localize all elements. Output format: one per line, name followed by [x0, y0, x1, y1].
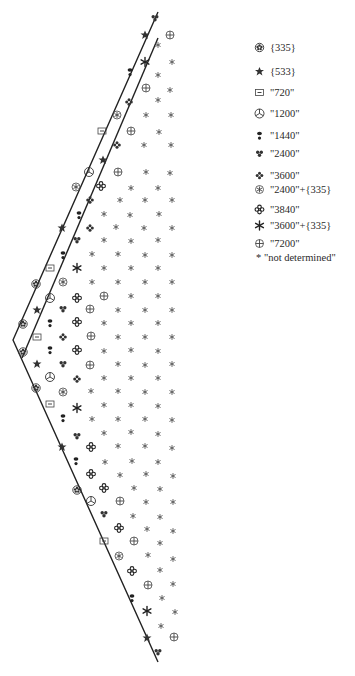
small-asterisk-marker — [129, 376, 133, 381]
quad-flower-icon — [254, 204, 265, 215]
flower-icon — [254, 42, 265, 53]
small-asterisk-marker — [158, 515, 162, 520]
small-asterisk-marker — [144, 472, 148, 477]
legend-label: "3600"+{335} — [270, 220, 331, 231]
circle-cross-marker — [86, 361, 94, 369]
outer-boundary-line — [13, 12, 158, 662]
keyhole-marker — [48, 319, 53, 327]
small-asterisk-marker — [156, 349, 160, 354]
small-asterisk-marker — [168, 88, 172, 93]
small-asterisk-marker — [170, 60, 174, 65]
quad-flower-marker — [100, 484, 109, 493]
snowflake-circle-icon — [254, 184, 265, 195]
legend-item: "1200" — [254, 108, 300, 119]
small-asterisk-marker — [116, 362, 120, 367]
small-asterisk-marker — [160, 596, 164, 601]
legend-label: {335} — [270, 42, 296, 53]
small-asterisk-marker — [129, 239, 133, 244]
boxed-dash-marker — [33, 334, 41, 340]
small-asterisk-marker — [129, 186, 133, 191]
small-asterisk-marker — [170, 198, 174, 203]
small-asterisk-marker — [143, 253, 147, 258]
small-asterisk-marker — [168, 171, 172, 176]
small-asterisk-marker — [129, 321, 133, 326]
small-asterisk-marker — [170, 418, 174, 423]
keyhole-marker — [61, 414, 66, 422]
boxed-dash-icon — [254, 87, 265, 98]
small-asterisk-marker — [116, 308, 120, 313]
quad-flower-marker — [115, 524, 124, 533]
legend-item: * "not determined" — [254, 252, 336, 263]
small-asterisk-marker — [144, 500, 148, 505]
small-asterisk-marker — [132, 486, 136, 491]
small-asterisk-marker — [143, 363, 147, 368]
circle-cross-marker — [100, 292, 108, 300]
small-asterisk-marker — [173, 610, 177, 615]
small-asterisk-marker — [116, 417, 120, 422]
small-asterisk-marker — [143, 335, 147, 340]
quad-flower-marker — [73, 346, 82, 355]
snowflake-circle-marker — [113, 111, 121, 119]
legend-label: "7200" — [270, 238, 300, 249]
circle-cross-marker — [116, 497, 124, 505]
mercedes-marker — [85, 168, 94, 177]
trefoil-marker — [101, 511, 108, 517]
small-asterisk-marker — [103, 460, 107, 465]
mercedes-marker — [87, 497, 96, 506]
legend-label: "1200" — [270, 108, 300, 119]
quad-flower-marker — [73, 318, 82, 327]
trefoil-marker — [155, 649, 162, 655]
asterisk-bold-icon — [254, 220, 265, 231]
circle-cross-marker — [170, 633, 178, 641]
keyhole-marker — [74, 457, 79, 465]
legend-label: "3840" — [270, 204, 300, 215]
star-icon — [254, 66, 265, 77]
small-asterisk-marker — [142, 226, 146, 231]
small-asterisk-marker — [129, 266, 133, 271]
four-dot-marker — [73, 375, 81, 383]
small-asterisk-marker — [171, 582, 175, 587]
circle-cross-marker — [142, 84, 150, 92]
small-asterisk-marker — [157, 212, 161, 217]
snowflake-circle-marker — [72, 183, 80, 191]
small-asterisk-marker — [143, 390, 147, 395]
small-asterisk-marker — [118, 473, 122, 478]
four-dot-marker — [59, 333, 67, 341]
keyhole-marker — [77, 211, 82, 219]
trefoil-marker — [152, 15, 159, 21]
small-asterisk-marker — [169, 143, 173, 148]
snowflake-circle-marker — [59, 388, 67, 396]
small-asterisk-marker — [170, 308, 174, 313]
small-asterisk-marker — [158, 568, 162, 573]
quad-flower-marker — [128, 567, 137, 576]
legend-item: "2400"+{335} — [254, 184, 331, 195]
small-asterisk-marker — [170, 253, 174, 258]
boxed-dash-marker — [46, 265, 54, 271]
small-asterisk-marker — [118, 198, 122, 203]
snowflake-circle-marker — [115, 552, 123, 560]
small-asterisk-marker — [128, 213, 132, 218]
small-asterisk-marker — [129, 348, 133, 353]
small-asterisk-marker — [156, 186, 160, 191]
circle-cross-marker — [144, 581, 152, 589]
small-asterisk-marker — [170, 446, 174, 451]
small-asterisk-marker — [143, 198, 147, 203]
small-asterisk-marker — [170, 280, 174, 285]
trefoil-icon — [254, 148, 265, 159]
small-asterisk-marker — [129, 403, 133, 408]
circle-cross-marker — [130, 537, 138, 545]
asterisk-bold-marker — [73, 264, 81, 273]
symbol-lattice — [19, 15, 178, 655]
small-asterisk-marker — [171, 500, 175, 505]
small-asterisk-marker — [142, 143, 146, 148]
small-asterisk-marker — [102, 321, 106, 326]
small-asterisk-marker — [131, 514, 135, 519]
quad-flower-marker — [87, 443, 96, 452]
small-asterisk-marker — [171, 557, 175, 562]
star-marker — [33, 306, 42, 314]
legend-label: * "not determined" — [256, 252, 336, 263]
small-asterisk-marker — [170, 335, 174, 340]
small-asterisk-marker — [156, 404, 160, 409]
legend-item: "3600" — [254, 170, 300, 181]
trefoil-marker — [60, 306, 67, 312]
